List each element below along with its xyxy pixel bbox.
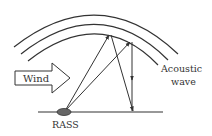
rass-label: RASS — [52, 119, 79, 130]
wind-label: Wind — [23, 73, 50, 84]
ray-up-2 — [65, 42, 130, 111]
diagram-svg: Wind Acoustic wave RASS — [0, 0, 212, 136]
wavefront-inner — [28, 34, 158, 65]
acoustic-wave-label-line1: Acoustic — [160, 63, 202, 74]
rass-diagram: Wind Acoustic wave RASS — [0, 0, 212, 136]
ray-paths — [65, 35, 133, 111]
ray-reflected-diagonal — [111, 35, 133, 111]
rass-antenna-icon — [57, 109, 71, 116]
ray-up-1 — [65, 35, 109, 111]
acoustic-wave-label-line2: wave — [171, 76, 196, 87]
